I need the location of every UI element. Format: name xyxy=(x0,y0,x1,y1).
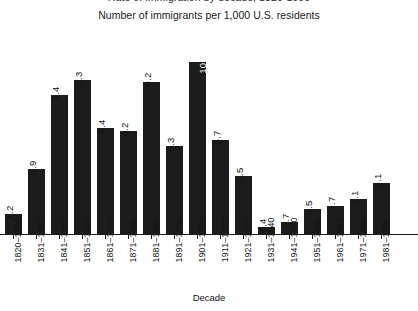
bar-value-label: 5.3 xyxy=(165,137,175,151)
bar-value-label: 1.5 xyxy=(303,200,313,214)
bar-value-label: 3.9 xyxy=(27,161,37,175)
category-slot: 1931–1940 xyxy=(255,239,278,289)
chart-title: Rate of immigration by decade, 1820-1990 xyxy=(0,0,418,3)
bar-value-label: 9.2 xyxy=(142,73,152,87)
category-label: 1851–1860 xyxy=(83,218,92,263)
category-slot: 1861–1870 xyxy=(94,239,117,289)
category-label: 1911–1920 xyxy=(221,218,230,262)
bar-slot: 5.3 xyxy=(163,28,186,234)
category-label: 1831–1840 xyxy=(37,218,46,263)
category-slot: 1851–1860 xyxy=(71,239,94,289)
category-slot: 1911–1920 xyxy=(209,239,232,289)
bar-slot: 3.5 xyxy=(232,28,255,234)
category-slot: 1831–1840 xyxy=(25,239,48,289)
bar-slot: 6.2 xyxy=(117,28,140,234)
x-axis-tick-labels: 1820–18301831–18401841–18501851–18601861… xyxy=(0,239,418,289)
category-label: 1841–1850 xyxy=(60,218,69,263)
bar-value-label: 8.4 xyxy=(50,86,60,100)
category-slot: 1941–1950 xyxy=(278,239,301,289)
bar-value-label: 6.2 xyxy=(119,123,129,137)
category-slot: 1820–1830 xyxy=(2,239,25,289)
category-label: 1981–1990 xyxy=(382,218,391,263)
category-label: 1881–1890 xyxy=(152,218,161,263)
bar-slot: 1.7 xyxy=(324,28,347,234)
bar-slot: 1.5 xyxy=(301,28,324,234)
category-label: 1931–1940 xyxy=(267,218,276,263)
bar-series: 1.23.98.49.36.46.29.25.310.45.73.50.40.7… xyxy=(0,28,418,234)
category-label: 1820–1830 xyxy=(14,218,23,263)
bar-slot: 3.1 xyxy=(370,28,393,234)
category-slot: 1871–1880 xyxy=(117,239,140,289)
bar-slot: 6.4 xyxy=(94,28,117,234)
bar[interactable]: 8.4 xyxy=(51,95,68,234)
category-label: 1921–1930 xyxy=(244,218,253,263)
bar-value-label: 2.1 xyxy=(349,190,359,204)
bar-value-label: 1.7 xyxy=(326,197,336,211)
category-slot: 1901–1910 xyxy=(186,239,209,289)
category-slot: 1961–1970 xyxy=(324,239,347,289)
bar-value-label: 10.4 xyxy=(198,54,208,73)
bar-slot: 3.9 xyxy=(25,28,48,234)
bar-value-label: 6.4 xyxy=(96,119,106,133)
bar-value-label: 3.5 xyxy=(234,167,244,181)
category-slot: 1841–1850 xyxy=(48,239,71,289)
bar[interactable]: 10.4 xyxy=(189,62,206,234)
bar[interactable]: 9.3 xyxy=(74,80,91,234)
bar-slot: 9.2 xyxy=(140,28,163,234)
category-label: 1871–1880 xyxy=(129,218,138,263)
bar-slot: 1.2 xyxy=(2,28,25,234)
category-label: 1941–1950 xyxy=(290,218,299,263)
x-axis-title: Decade xyxy=(0,292,418,303)
category-slot: 1881–1890 xyxy=(140,239,163,289)
category-label: 1891–1900 xyxy=(175,218,184,263)
bar-slot: 10.4 xyxy=(186,28,209,234)
bar-value-label: 3.1 xyxy=(372,174,382,188)
chart-subtitle: Number of immigrants per 1,000 U.S. resi… xyxy=(0,9,418,21)
category-label: 1961–1970 xyxy=(336,218,345,263)
bar-slot: 2.1 xyxy=(347,28,370,234)
bar-slot: 9.3 xyxy=(71,28,94,234)
bar-chart-figure: Rate of immigration by decade, 1820-1990… xyxy=(0,0,418,311)
category-label: 1951–1960 xyxy=(313,218,322,263)
category-slot: 1971–1980 xyxy=(347,239,370,289)
bar-slot: 8.4 xyxy=(48,28,71,234)
bar-value-label: 9.3 xyxy=(73,71,83,85)
category-label: 1901–1910 xyxy=(198,218,207,263)
category-slot: 1981–1990 xyxy=(370,239,393,289)
plot-area: 1.23.98.49.36.46.29.25.310.45.73.50.40.7… xyxy=(0,28,418,234)
category-slot: 1951–1960 xyxy=(301,239,324,289)
bar-slot: 0.4 xyxy=(255,28,278,234)
category-slot: 1921–1930 xyxy=(232,239,255,289)
category-label: 1971–1980 xyxy=(359,218,368,263)
bar-slot: 5.7 xyxy=(209,28,232,234)
bar[interactable]: 9.2 xyxy=(143,82,160,234)
category-slot: 1891–1900 xyxy=(163,239,186,289)
bar-slot: 0.7 xyxy=(278,28,301,234)
category-label: 1861–1870 xyxy=(106,218,115,263)
bar-value-label: 5.7 xyxy=(211,131,221,145)
